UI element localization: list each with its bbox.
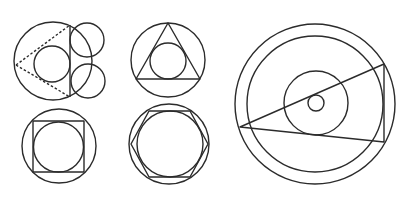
- background: [0, 0, 415, 200]
- geometry-diagram: [0, 0, 415, 200]
